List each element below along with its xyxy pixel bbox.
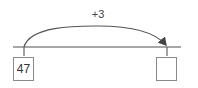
answer-box[interactable]: [156, 57, 177, 81]
start-value-box: 47: [13, 57, 34, 81]
jump-label: +3: [92, 8, 105, 20]
jump-arc-arrow: [24, 26, 166, 47]
